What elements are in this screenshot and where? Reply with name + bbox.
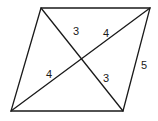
label-lower-long-segment: 4: [46, 68, 52, 80]
label-lower-short-segment: 3: [103, 72, 109, 84]
label-right-side: 5: [141, 59, 147, 71]
diagonal-topleft-bottomright: [41, 8, 123, 111]
label-upper-short-segment: 3: [73, 25, 79, 37]
label-upper-long-segment: 4: [103, 27, 109, 39]
parallelogram-diagram: 3 4 4 3 5: [0, 0, 158, 121]
diagonal-bottomleft-topright: [11, 8, 150, 111]
